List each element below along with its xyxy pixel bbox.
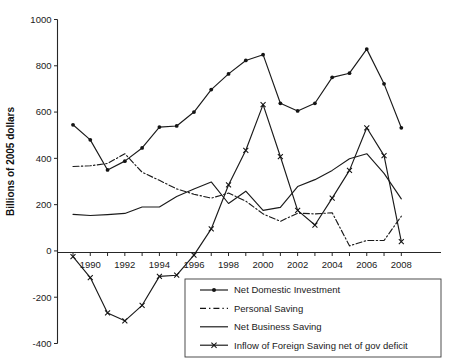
- data-point-marker: [296, 109, 300, 113]
- chart-container: 10008006004002000-200-400Billions of 200…: [0, 0, 449, 362]
- data-point-marker: [244, 59, 248, 63]
- series-1: [71, 47, 403, 172]
- series-line-1: [73, 49, 401, 170]
- legend-item-label: Personal Saving: [234, 303, 303, 314]
- x-tick-label: 1994: [149, 259, 170, 270]
- data-point-marker: [348, 71, 352, 75]
- x-tick-label: 1992: [114, 259, 135, 270]
- data-point-marker: [88, 275, 93, 280]
- y-tick-label: 600: [36, 106, 52, 117]
- y-tick-label: 200: [36, 199, 52, 210]
- legend-item-label: Inflow of Foreign Saving net of gov defi…: [234, 340, 408, 351]
- x-axis: 1990199219941996199820002002200420062008: [58, 253, 442, 270]
- x-tick-label: 2002: [287, 259, 308, 270]
- legend-marker-diamond: [212, 288, 216, 292]
- data-point-marker: [243, 148, 248, 153]
- data-point-marker: [227, 72, 231, 76]
- data-point-marker: [382, 82, 386, 86]
- x-tick-label: 2008: [391, 259, 412, 270]
- data-point-marker: [106, 168, 110, 172]
- x-tick-label: 1998: [218, 259, 239, 270]
- y-tick-label: 400: [36, 153, 52, 164]
- data-point-marker: [226, 182, 231, 187]
- data-point-marker: [175, 124, 179, 128]
- data-point-marker: [209, 88, 213, 92]
- chart-legend: Net Domestic InvestmentPersonal SavingNe…: [185, 279, 441, 357]
- data-point-marker: [365, 47, 369, 51]
- data-point-marker: [330, 75, 334, 79]
- y-tick-label: -400: [32, 338, 51, 349]
- data-point-marker: [313, 101, 317, 105]
- data-point-marker: [209, 226, 214, 231]
- data-point-marker: [312, 223, 317, 228]
- data-point-marker: [140, 303, 145, 308]
- data-point-marker: [158, 125, 162, 129]
- y-axis: 10008006004002000-200-400: [30, 14, 57, 349]
- legend-item-label: Net Domestic Investment: [234, 284, 340, 295]
- y-tick-label: 800: [36, 60, 52, 71]
- data-point-marker: [71, 123, 75, 127]
- data-point-marker: [122, 318, 127, 323]
- legend-item-label: Net Business Saving: [234, 321, 322, 332]
- data-point-marker: [88, 138, 92, 142]
- y-tick-label: 1000: [30, 14, 51, 25]
- y-axis-title: Billions of 2005 dollars: [5, 107, 16, 216]
- data-point-marker: [399, 126, 403, 130]
- data-point-marker: [123, 159, 127, 163]
- data-point-marker: [192, 110, 196, 114]
- x-tick-label: 2006: [356, 259, 377, 270]
- y-tick-label: -200: [32, 292, 51, 303]
- data-point-marker: [278, 101, 282, 105]
- line-chart: 10008006004002000-200-400Billions of 200…: [0, 0, 449, 362]
- x-tick-label: 2000: [253, 259, 274, 270]
- data-point-marker: [330, 196, 335, 201]
- data-point-marker: [347, 168, 352, 173]
- x-tick-label: 2004: [322, 259, 343, 270]
- y-tick-label: 0: [46, 245, 51, 256]
- data-point-marker: [140, 146, 144, 150]
- data-point-marker: [105, 310, 110, 315]
- data-point-marker: [261, 53, 265, 57]
- data-point-marker: [364, 125, 369, 130]
